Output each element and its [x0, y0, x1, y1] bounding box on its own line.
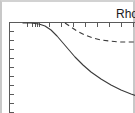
- series-label-rho: Rho: [116, 8, 135, 21]
- plot-panel: Rho: [9, 9, 135, 113]
- solid-curve-path: [23, 23, 135, 96]
- dashed-curve-path: [65, 23, 135, 42]
- figure-frame: Rho: [0, 0, 135, 113]
- plot-curves: [9, 9, 135, 113]
- chart-screenshot: Rho: [0, 0, 135, 113]
